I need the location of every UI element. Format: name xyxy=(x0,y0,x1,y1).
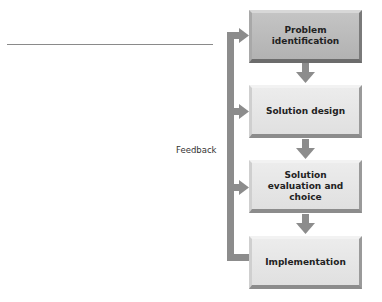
down-arrow-3 xyxy=(296,223,315,234)
feedback-bracket-bar xyxy=(227,32,234,261)
feedback-top-arm xyxy=(227,32,241,39)
step-implementation: Implementation xyxy=(249,236,362,289)
decision-process-diagram: Problem identification Solution design S… xyxy=(0,0,382,302)
arrow-head-to-solution-evaluation xyxy=(239,180,249,195)
step-solution-evaluation: Solution evaluation and choice xyxy=(249,160,362,213)
step-label: Solution evaluation and choice xyxy=(266,170,346,203)
step-label: Implementation xyxy=(265,257,346,268)
step-solution-design: Solution design xyxy=(249,85,362,138)
step-problem-identification: Problem identification xyxy=(249,10,362,63)
feedback-bottom-arm xyxy=(227,254,249,261)
arrow-head-to-solution-design xyxy=(239,104,249,119)
down-arrow-2 xyxy=(296,148,315,159)
step-label: Solution design xyxy=(266,106,345,117)
step-label: Problem identification xyxy=(252,25,359,47)
arrow-head-to-problem-identification xyxy=(239,28,249,43)
feedback-label: Feedback xyxy=(176,145,216,155)
down-arrow-1 xyxy=(296,72,315,83)
